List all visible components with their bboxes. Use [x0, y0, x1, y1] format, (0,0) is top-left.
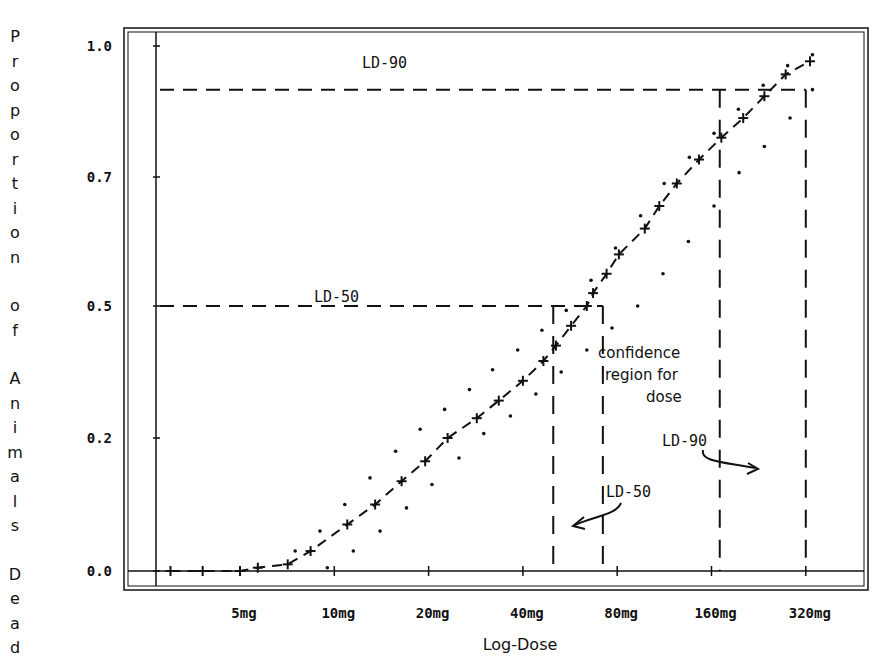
band-point: [737, 108, 741, 112]
band-point: [559, 370, 563, 374]
ld50-arrow: [575, 503, 621, 525]
fitted-point: [654, 201, 664, 211]
band-point: [318, 529, 322, 533]
band-point: [589, 278, 593, 282]
band-point: [737, 171, 741, 175]
fitted-curve-line: [171, 61, 810, 571]
x-tick-label: 80mg: [604, 605, 638, 621]
y-axis-title-char: a: [10, 467, 20, 486]
y-tick-label: 1.0: [87, 38, 112, 54]
band-point: [540, 328, 544, 332]
confidence-note-line-2: region for: [605, 366, 679, 384]
y-axis-title-char: o: [10, 296, 20, 315]
band-point: [614, 246, 618, 250]
y-axis-title-char: o: [10, 125, 20, 144]
y-tick-label: 0.0: [87, 563, 112, 579]
band-point: [763, 145, 767, 149]
y-axis-title-char: P: [10, 27, 20, 46]
x-tick-label: 40mg: [510, 605, 544, 621]
ld50-arrow-label: LD-50: [606, 483, 651, 501]
y-axis-title-char: d: [10, 638, 20, 657]
fitted-point: [283, 559, 293, 569]
y-axis-title-char: r: [12, 52, 19, 71]
y-tick-label: 0.7: [87, 169, 112, 185]
y-axis-title-char: f: [12, 321, 18, 340]
fitted-point: [198, 566, 208, 576]
y-axis-title-char: A: [10, 369, 21, 388]
ld90-label: LD-90: [362, 54, 407, 72]
band-point: [639, 214, 643, 218]
y-axis-title-char: m: [7, 443, 23, 462]
band-point: [430, 483, 434, 487]
band-point: [491, 368, 495, 372]
ld-reference-lines: [160, 90, 806, 571]
y-axis-title-char: a: [10, 614, 20, 633]
band-point: [509, 414, 513, 418]
band-point: [326, 566, 330, 570]
confidence-note-line-1: confidence: [598, 344, 680, 362]
x-tick-label: 320mg: [789, 605, 831, 621]
y-axis-title-char: p: [10, 101, 20, 120]
fitted-point: [640, 224, 650, 234]
x-axis-ticks: 5mg10mg20mg40mg80mg160mg320mg: [231, 566, 831, 621]
y-tick-label: 0.5: [87, 298, 112, 314]
y-axis-title-char: s: [11, 516, 19, 535]
band-point: [516, 348, 520, 352]
band-point: [468, 388, 472, 392]
band-point: [443, 408, 447, 412]
band-point: [418, 427, 422, 431]
y-axis-title-char: n: [10, 248, 20, 267]
y-axis-title-char: o: [10, 223, 20, 242]
band-point: [761, 84, 765, 88]
band-point: [610, 326, 614, 330]
band-point: [661, 272, 665, 276]
ld90-arrow-label: LD-90: [662, 432, 707, 450]
plot-frame: [124, 28, 868, 590]
ld50-label: LD-50: [314, 288, 359, 306]
y-tick-label: 0.2: [87, 430, 112, 446]
band-point: [405, 506, 409, 510]
y-axis-title-char: e: [10, 589, 20, 608]
band-point: [788, 116, 792, 120]
y-axis-title-char: l: [13, 492, 17, 511]
fitted-point: [166, 566, 176, 576]
ld-chart: ProportionofAnimalsDead 0.00.20.50.71.0 …: [0, 0, 887, 672]
band-point: [394, 450, 398, 454]
fitted-point: [805, 56, 815, 66]
band-point: [811, 53, 815, 57]
fitted-point: [235, 566, 245, 576]
ld90-arrow: [703, 450, 755, 468]
band-point: [636, 304, 640, 308]
x-tick-label: 160mg: [694, 605, 736, 621]
fitted-curve: [166, 56, 815, 576]
x-tick-label: 5mg: [231, 605, 256, 621]
confidence-note-line-3: dose: [646, 388, 682, 406]
band-point: [534, 392, 538, 396]
band-point: [343, 503, 347, 507]
y-axis-title-char: o: [10, 76, 20, 95]
y-axis-title-char: r: [12, 150, 19, 169]
band-point: [712, 132, 716, 136]
band-point: [368, 476, 372, 480]
band-point: [688, 156, 692, 160]
band-point: [482, 432, 486, 436]
band-point: [378, 529, 382, 533]
band-point: [811, 88, 815, 92]
band-point: [662, 182, 666, 186]
y-axis-title-char: i: [13, 199, 17, 218]
y-axis-title-char: t: [12, 174, 18, 193]
band-point: [564, 309, 568, 313]
x-tick-label: 10mg: [321, 605, 355, 621]
y-axis-title: ProportionofAnimalsDead: [7, 27, 23, 657]
y-axis-title-char: D: [9, 565, 21, 584]
band-point: [786, 64, 790, 68]
band-point: [352, 549, 356, 553]
band-point: [687, 240, 691, 244]
band-point: [712, 204, 716, 208]
x-tick-label: 20mg: [416, 605, 450, 621]
band-point: [293, 549, 297, 553]
y-axis-title-char: n: [10, 394, 20, 413]
x-axis-title: Log-Dose: [483, 635, 558, 654]
band-point: [457, 456, 461, 460]
band-point: [585, 348, 589, 352]
